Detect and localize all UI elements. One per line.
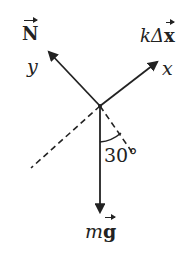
normal-force-arrow [49,52,100,106]
dashed-axis-x-extension [31,106,100,168]
x-axis-label: x [162,59,173,78]
gravity-force-symbol: g [103,222,116,241]
angle-arc [100,133,121,142]
origin-point [98,104,102,108]
normal-force-label: N [22,25,38,43]
angle-label: 30° [104,146,138,165]
spring-force-prefix: kΔ [140,25,164,46]
y-axis-label: y [27,57,38,76]
gravity-force-label: mg [85,222,116,241]
spring-force-label: kΔx [140,27,175,45]
normal-force-symbol: N [22,25,38,43]
spring-force-arrow [100,62,157,106]
gravity-force-prefix: m [85,220,103,242]
spring-force-symbol: x [164,27,175,45]
